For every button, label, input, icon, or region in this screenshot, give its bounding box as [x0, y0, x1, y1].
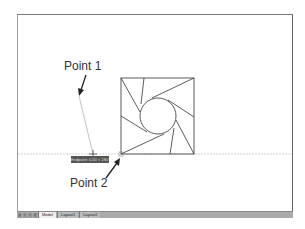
last-tab-icon[interactable]: >| [33, 213, 37, 218]
blade-line [141, 78, 144, 104]
point1-arrow-icon [78, 75, 86, 96]
first-tab-icon[interactable]: |< [18, 213, 22, 218]
point1-label: Point 1 [64, 59, 101, 73]
blade-line [168, 100, 194, 117]
inner-circle [140, 98, 176, 134]
tab-layout1[interactable]: Layout1 [57, 212, 78, 218]
rubber-band-line [79, 96, 93, 154]
blade-line [176, 120, 194, 154]
square-outline [121, 78, 194, 154]
blade-line [121, 116, 147, 132]
point2-label: Point 2 [70, 176, 107, 190]
pinwheel-drawing [121, 78, 194, 154]
tab-layout2[interactable]: Layout2 [79, 212, 100, 218]
layout-tab-bar: |< < > >| Model Layout1 Layout2 [17, 211, 293, 218]
osnap-tooltip: Endpoint: 0.00 < 180° [71, 156, 109, 163]
blade-line [170, 128, 174, 154]
blade-line [121, 78, 140, 112]
drawing-canvas [0, 0, 305, 229]
prev-tab-icon[interactable]: < [23, 213, 27, 218]
tab-model[interactable]: Model [38, 212, 56, 218]
blade-line [121, 134, 164, 154]
next-tab-icon[interactable]: > [28, 213, 32, 218]
blade-line [152, 78, 194, 98]
